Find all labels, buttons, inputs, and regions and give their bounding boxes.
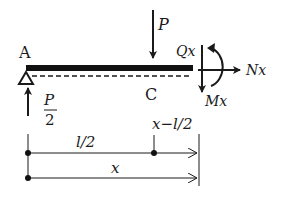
beam — [26, 65, 193, 71]
label-nx: Nx — [245, 62, 266, 78]
label-qx: Qx — [176, 43, 195, 59]
reaction-numerator: P — [43, 91, 55, 109]
dim-dot — [25, 175, 31, 181]
label-offset: x−l/2 — [152, 115, 192, 133]
moment-arrowhead-icon — [207, 43, 215, 53]
label-p: P — [157, 15, 169, 34]
reaction-denominator: 2 — [45, 111, 55, 129]
dim-dot — [151, 150, 157, 156]
dim-dot — [25, 150, 31, 156]
label-c: C — [145, 85, 157, 104]
beam-diagram: A P C P 2 Qx Nx Mx l/2 x−l/2 x — [0, 0, 283, 202]
label-a: A — [18, 43, 31, 62]
pin-support-icon — [19, 72, 33, 84]
moment-arrow-mx — [211, 48, 223, 86]
label-x: x — [111, 159, 120, 177]
label-half-length: l/2 — [76, 133, 95, 151]
label-mx: Mx — [204, 93, 227, 109]
